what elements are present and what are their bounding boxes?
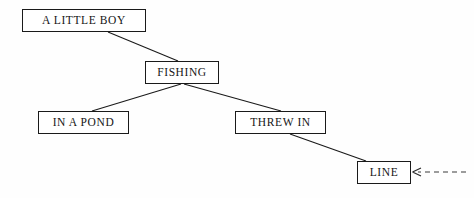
edge-a-little-boy-to-fishing [108, 32, 178, 61]
edge-threw-in-to-line [290, 134, 366, 161]
node-fishing[interactable]: FISHING [145, 61, 219, 84]
node-a-little-boy[interactable]: A LITTLE BOY [22, 9, 146, 32]
node-label: LINE [370, 166, 399, 178]
node-in-a-pond[interactable]: IN A POND [38, 111, 129, 134]
node-threw-in[interactable]: THREW IN [235, 111, 326, 134]
node-label: FISHING [157, 66, 207, 78]
node-label: A LITTLE BOY [42, 14, 126, 26]
incoming-dashed-arrow [413, 168, 467, 176]
diagram-canvas: A LITTLE BOY FISHING IN A POND THREW IN … [0, 0, 474, 198]
node-label: THREW IN [250, 116, 310, 128]
node-label: IN A POND [53, 116, 115, 128]
node-line[interactable]: LINE [357, 161, 411, 184]
edge-fishing-to-threw-in [184, 84, 281, 111]
edge-fishing-to-in-a-pond [92, 84, 181, 111]
